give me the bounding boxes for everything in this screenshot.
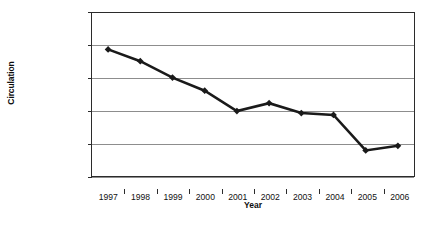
data-series-layer <box>92 12 414 176</box>
x-tick-mark <box>189 189 190 194</box>
x-tick-mark <box>319 189 320 194</box>
chart-title <box>0 0 427 2</box>
y-tick-mark <box>88 177 92 178</box>
y-axis-title: Circulation <box>6 48 16 118</box>
x-tick-mark <box>351 189 352 194</box>
series-line-circulation <box>108 49 398 150</box>
x-tick-mark <box>254 189 255 194</box>
data-point-2006 <box>395 142 402 149</box>
data-point-2003 <box>298 110 305 117</box>
x-axis-title: Year <box>91 200 415 210</box>
plot-area: 85,000,00090,000,00095,000,000100,000,00… <box>91 12 415 177</box>
data-point-2002 <box>266 100 273 107</box>
gridline-85000000 <box>92 177 414 178</box>
series-markers <box>105 46 402 154</box>
x-tick-mark <box>157 189 158 194</box>
data-point-1997 <box>105 46 112 53</box>
x-tick-mark <box>286 189 287 194</box>
x-tick-mark <box>222 189 223 194</box>
line-chart-figure: Circulation 85,000,00090,000,00095,000,0… <box>0 0 427 226</box>
x-tick-mark <box>384 189 385 194</box>
x-tick-mark <box>124 189 125 194</box>
